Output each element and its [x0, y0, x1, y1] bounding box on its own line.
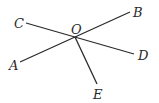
label-a: A	[8, 58, 18, 73]
label-b: B	[132, 5, 143, 20]
label-c: C	[14, 16, 24, 31]
ray-oe	[75, 37, 97, 84]
label-o: O	[71, 22, 82, 37]
geometry-diagram: O A B C D E	[0, 0, 159, 103]
label-d: D	[137, 48, 149, 63]
label-e: E	[92, 87, 103, 102]
